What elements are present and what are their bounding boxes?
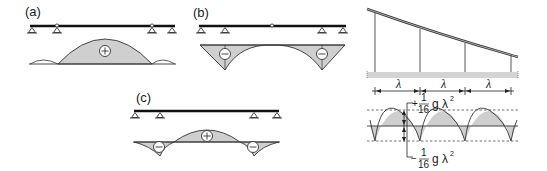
hinge-icon (270, 24, 273, 27)
max-moment-denominator: 16 (418, 104, 430, 115)
cable (367, 9, 518, 57)
suspension-panel: λ λ λ + 1 (367, 9, 518, 170)
span-dimension: λ λ λ (372, 77, 514, 95)
panel-b: (b) (193, 5, 348, 70)
support-icon (249, 113, 259, 119)
max-moment-expr: g λ (432, 97, 448, 111)
min-moment-expr: g λ (432, 152, 448, 166)
min-moment-numerator: 1 (421, 147, 427, 158)
support-icon (147, 28, 157, 34)
support-icon (130, 113, 140, 119)
span-label: λ (440, 77, 446, 91)
panel-b-label: (b) (193, 5, 209, 20)
support-icon (338, 28, 348, 34)
moment-diagram-b (200, 45, 345, 70)
panel-c: (c) (130, 90, 282, 156)
max-moment-exponent: 2 (450, 95, 454, 102)
support-icon (317, 28, 327, 34)
max-moment-numerator: 1 (421, 92, 427, 103)
support-icon (196, 28, 206, 34)
support-icon (167, 28, 177, 34)
panel-a: (a) (25, 4, 177, 64)
min-moment-sign: − (411, 153, 417, 164)
support-icon (52, 28, 62, 34)
support-icon (155, 113, 165, 119)
span-label: λ (485, 77, 491, 91)
hangers (375, 13, 511, 72)
moment-diagram-a (29, 39, 176, 64)
beam-b (196, 24, 348, 33)
hinge-icon (150, 24, 153, 27)
min-moment-denominator: 16 (418, 159, 430, 170)
span-label: λ (395, 77, 401, 91)
diagram-canvas: (a) (b) (0, 0, 547, 171)
moment-diagram-c (133, 130, 280, 156)
support-icon (27, 28, 37, 34)
support-icon (272, 113, 282, 119)
support-icon (220, 28, 230, 34)
panel-c-label: (c) (136, 90, 151, 105)
panel-a-label: (a) (25, 4, 41, 19)
moment-envelope: + 1 16 g λ 2 − 1 16 g λ 2 (367, 92, 518, 170)
min-moment-exponent: 2 (450, 150, 454, 157)
beam-c (130, 111, 282, 118)
beam-a (27, 24, 177, 33)
hinge-icon (55, 24, 58, 27)
